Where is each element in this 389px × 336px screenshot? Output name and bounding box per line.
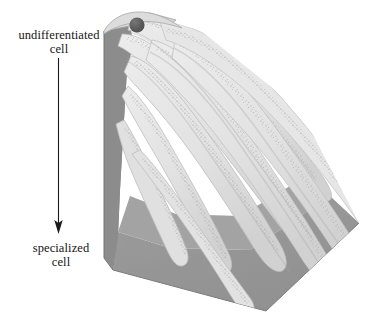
label-specialized-line1: specialized — [33, 241, 90, 255]
label-undifferentiated-line1: undifferentiated — [18, 28, 99, 42]
label-specialized-cell: specialized cell — [2, 241, 120, 269]
label-specialized-line2: cell — [2, 255, 120, 269]
differentiation-arrow — [54, 58, 62, 234]
label-undifferentiated-line2: cell — [0, 42, 118, 56]
figure-root: undifferentiated cell specialized cell — [0, 0, 389, 336]
undifferentiated-cell-dot — [129, 17, 144, 32]
label-undifferentiated-cell: undifferentiated cell — [0, 28, 118, 56]
